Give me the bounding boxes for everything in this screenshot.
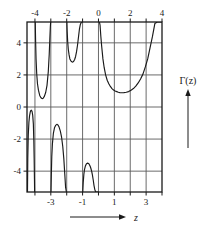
x-axis-top-label: -2 — [63, 8, 71, 18]
gamma-function-label: Γ(z) — [180, 75, 197, 87]
y-axis-label: 0 — [17, 102, 22, 112]
axis-tick-labels: -4-2024-3-113420-2-4 — [14, 8, 165, 207]
grid-lines — [27, 22, 162, 192]
axis-annotations: Γ(z)z — [70, 75, 196, 223]
y-axis-label: 4 — [17, 38, 22, 48]
y-axis-label: 2 — [17, 70, 22, 80]
x-axis-top-label: 4 — [160, 8, 165, 18]
z-axis-title: z — [133, 212, 138, 223]
plot-canvas: -4-2024-3-113420-2-4 Γ(z)z — [0, 0, 210, 234]
y-axis-label: -4 — [14, 166, 22, 176]
x-axis-bottom-label: -1 — [79, 197, 87, 207]
gamma-branch — [99, 22, 162, 93]
x-axis-top-label: 0 — [96, 8, 101, 18]
z-axis-arrow-head — [119, 214, 126, 219]
gamma-branch — [83, 163, 98, 192]
y-axis-label: -2 — [14, 134, 22, 144]
x-axis-top-label: -4 — [31, 8, 39, 18]
x-axis-bottom-label: 3 — [144, 197, 149, 207]
x-axis-top-label: 2 — [128, 8, 133, 18]
gamma-branch — [35, 22, 50, 99]
x-axis-bottom-label: 1 — [112, 197, 117, 207]
x-axis-bottom-label: -3 — [47, 197, 55, 207]
gamma-axis-arrow-head — [185, 89, 190, 96]
gamma-branch — [67, 22, 83, 62]
gamma-branch — [51, 124, 67, 192]
gamma-function-figure: -4-2024-3-113420-2-4 Γ(z)z — [0, 0, 210, 234]
gamma-branch — [27, 110, 34, 192]
